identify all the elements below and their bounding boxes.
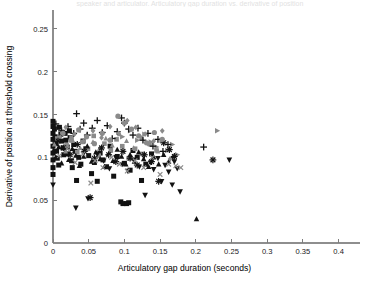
marker-triangle-down: [227, 158, 233, 163]
y-tick-label: 0: [44, 239, 48, 248]
marker-star: [74, 141, 81, 148]
y-tick-label: 0.05: [33, 196, 48, 205]
x-tick-label: 0.35: [295, 247, 310, 256]
marker-circle: [76, 127, 81, 132]
marker-square: [51, 172, 56, 177]
marker-star: [166, 146, 173, 153]
y-tick-label: 0.25: [33, 25, 48, 34]
marker-diamond: [160, 128, 165, 134]
marker-x: [158, 172, 163, 177]
marker-diamond: [108, 124, 113, 130]
marker-plus: [73, 110, 80, 117]
x-tick-label: 0.1: [119, 247, 130, 256]
marker-triangle-down: [155, 156, 161, 161]
marker-square: [89, 171, 94, 176]
marker-plus: [80, 120, 87, 127]
series-triangle-right-gray: [120, 128, 220, 157]
marker-circle: [108, 138, 113, 143]
marker-square: [120, 144, 125, 149]
marker-circle: [136, 133, 141, 138]
marker-triangle-down: [50, 182, 56, 187]
x-tick-label: 0.15: [153, 247, 168, 256]
marker-triangle-right: [120, 134, 125, 139]
marker-square: [111, 174, 116, 179]
marker-triangle-up: [194, 216, 199, 221]
marker-square: [63, 138, 68, 143]
marker-circle: [60, 131, 65, 136]
marker-square: [126, 200, 131, 205]
marker-star: [127, 155, 134, 162]
marker-star: [98, 145, 105, 152]
marker-triangle-down: [166, 170, 172, 175]
marker-triangle-down: [142, 193, 148, 198]
x-tick-label: 0.05: [81, 247, 96, 256]
marker-circle: [68, 138, 73, 143]
marker-triangle-down: [169, 182, 175, 187]
marker-star: [210, 157, 217, 164]
ticks-group: 00.050.10.150.20.250.30.350.400.050.10.1…: [33, 25, 344, 256]
y-tick-label: 0.15: [33, 111, 48, 120]
x-tick-label: 0.3: [262, 247, 273, 256]
marker-x: [89, 181, 94, 186]
marker-triangle-down: [177, 189, 183, 194]
marker-square: [95, 179, 100, 184]
marker-triangle-right: [215, 128, 220, 133]
scatter-plot: 00.050.10.150.20.250.30.350.400.050.10.1…: [0, 0, 380, 292]
marker-square: [86, 153, 91, 158]
marker-circle: [115, 114, 120, 119]
marker-square: [114, 137, 119, 142]
y-axis-title: Derivative of position at threshold cros…: [4, 46, 14, 208]
marker-triangle-up: [124, 138, 129, 143]
marker-circle: [92, 141, 97, 146]
data-points-group: [50, 110, 232, 221]
marker-circle: [84, 134, 89, 139]
figure-container: speaker and articulator. Articulatory ga…: [0, 0, 380, 292]
marker-triangle-down: [73, 206, 79, 211]
marker-circle: [129, 126, 134, 131]
y-tick-label: 0.1: [37, 153, 48, 162]
x-tick-label: 0: [51, 247, 55, 256]
y-tick-label: 0.2: [37, 68, 48, 77]
marker-circle: [152, 130, 157, 135]
marker-square: [139, 178, 144, 183]
marker-x: [109, 155, 114, 160]
marker-circle: [160, 137, 165, 142]
marker-plus: [94, 117, 101, 124]
marker-square: [51, 119, 56, 124]
marker-plus: [200, 144, 207, 151]
marker-square: [74, 178, 79, 183]
marker-triangle-up: [85, 143, 90, 148]
marker-star: [141, 151, 148, 158]
marker-circle: [100, 131, 105, 136]
marker-triangle-down: [151, 167, 157, 172]
marker-triangle-up: [115, 147, 120, 152]
marker-triangle-up: [156, 161, 161, 166]
x-tick-label: 0.2: [191, 247, 202, 256]
x-axis-title: Articulatory gap duration (seconds): [118, 263, 251, 273]
marker-star: [155, 178, 162, 185]
marker-plus: [130, 132, 137, 139]
axes-group: [53, 10, 360, 243]
marker-star: [120, 148, 127, 155]
marker-square: [102, 141, 107, 146]
bottom-caption-text: [0, 286, 380, 292]
marker-star: [67, 151, 74, 158]
marker-star: [55, 138, 62, 145]
x-tick-label: 0.4: [333, 247, 344, 256]
marker-star: [87, 194, 94, 201]
marker-square: [70, 165, 75, 170]
marker-square: [91, 134, 96, 139]
marker-square: [51, 165, 56, 170]
marker-square: [52, 127, 57, 132]
marker-circle: [144, 140, 149, 145]
x-tick-label: 0.25: [224, 247, 239, 256]
